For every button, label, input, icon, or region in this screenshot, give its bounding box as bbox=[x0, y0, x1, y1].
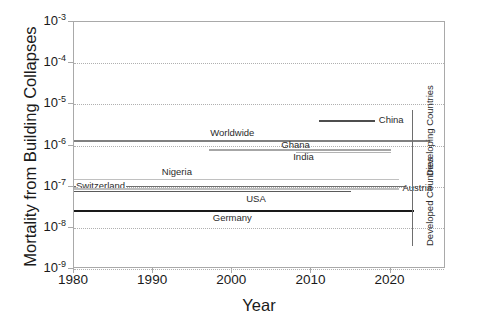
y-axis-title: Mortality from Building Collapses bbox=[21, 17, 40, 277]
series-label-germany: Germany bbox=[213, 212, 252, 223]
y-tick-label: 10-7 bbox=[44, 177, 66, 193]
series-label-nigeria: Nigeria bbox=[162, 166, 192, 177]
bracket-developing bbox=[412, 110, 413, 176]
series-line-usa bbox=[74, 191, 351, 192]
series-line-ghana bbox=[296, 152, 391, 153]
y-tick-label: 10-4 bbox=[44, 53, 66, 69]
x-tick-label: 2020 bbox=[360, 272, 420, 287]
bracket-developed bbox=[412, 176, 413, 246]
y-tick-label: 10-6 bbox=[44, 136, 66, 152]
series-line-worldwide bbox=[74, 140, 430, 142]
series-label-usa: USA bbox=[246, 193, 266, 204]
series-label-worldwide: Worldwide bbox=[210, 127, 254, 138]
x-tick-label: 2010 bbox=[280, 272, 340, 287]
y-tick-label: 10-3 bbox=[44, 12, 66, 28]
x-tick-label: 1990 bbox=[122, 272, 182, 287]
plot-area: WorldwideChinaIndiaGhanaNigeriaSwitzerla… bbox=[73, 21, 445, 268]
bracket-label-developed: Developed Countries bbox=[424, 157, 435, 246]
grid-line bbox=[74, 63, 444, 64]
grid-line bbox=[74, 228, 444, 229]
x-tick-label: 1980 bbox=[43, 272, 103, 287]
x-tick-label: 2000 bbox=[201, 272, 261, 287]
series-label-china: China bbox=[379, 114, 404, 125]
x-axis-title: Year bbox=[73, 296, 445, 315]
series-line-austria bbox=[74, 188, 399, 190]
chart-figure: Mortality from Building Collapses Year 1… bbox=[0, 0, 495, 322]
series-line-china bbox=[319, 120, 374, 122]
grid-line bbox=[74, 146, 444, 147]
y-tick-label: 10-8 bbox=[44, 218, 66, 234]
series-label-ghana: Ghana bbox=[281, 139, 310, 150]
grid-line bbox=[74, 269, 444, 270]
grid-line bbox=[74, 104, 444, 105]
y-tick-label: 10-5 bbox=[44, 94, 66, 110]
